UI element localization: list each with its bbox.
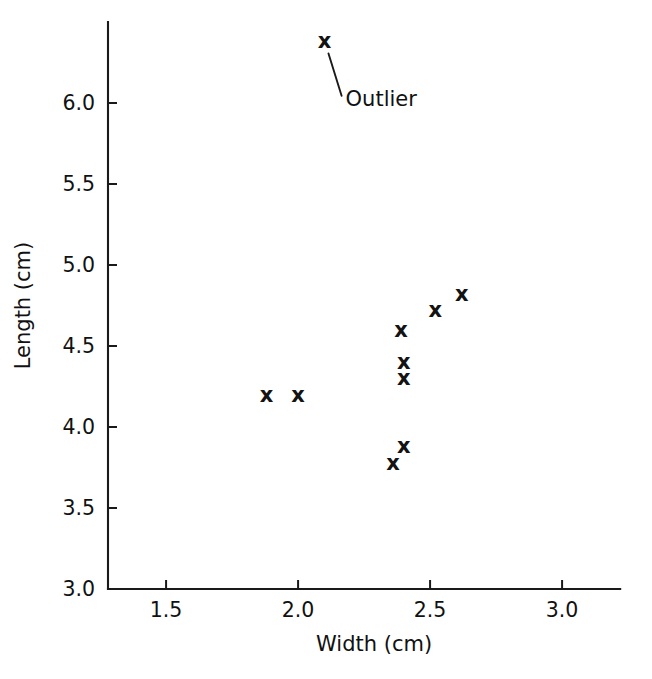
y-tick-label: 5.5 bbox=[62, 172, 95, 196]
data-point-marker: x bbox=[386, 451, 400, 475]
data-point-marker: x bbox=[394, 318, 408, 342]
data-point-marker: x bbox=[260, 383, 274, 407]
y-tick-label: 3.5 bbox=[62, 496, 95, 520]
data-point-marker: x bbox=[429, 298, 443, 322]
x-axis-tick-group: 1.52.02.53.0 bbox=[150, 580, 579, 622]
data-point-marker: x bbox=[318, 29, 332, 53]
y-tick-label: 4.5 bbox=[62, 334, 95, 358]
scatter-plot-figure: 3.03.54.04.55.05.56.0 1.52.02.53.0 xxxxx… bbox=[0, 0, 652, 679]
y-tick-label: 5.0 bbox=[62, 253, 95, 277]
annotation-leader-line bbox=[328, 53, 341, 95]
data-point-marker: x bbox=[455, 282, 469, 306]
x-axis-title: Width (cm) bbox=[316, 632, 432, 656]
plot-canvas: 3.03.54.04.55.05.56.0 1.52.02.53.0 xxxxx… bbox=[0, 0, 652, 679]
outlier-annotation-group: Outlier bbox=[328, 53, 417, 110]
y-tick-label: 4.0 bbox=[62, 415, 95, 439]
x-tick-label: 2.5 bbox=[414, 598, 447, 622]
data-point-marker: x bbox=[291, 383, 305, 407]
y-tick-label: 6.0 bbox=[62, 91, 95, 115]
y-axis-title: Length (cm) bbox=[11, 242, 35, 370]
data-point-marker: x bbox=[397, 366, 411, 390]
y-tick-label: 3.0 bbox=[62, 577, 95, 601]
x-tick-label: 3.0 bbox=[546, 598, 579, 622]
x-tick-label: 1.5 bbox=[150, 598, 183, 622]
x-tick-label: 2.0 bbox=[282, 598, 315, 622]
outlier-annotation-label: Outlier bbox=[346, 87, 418, 111]
